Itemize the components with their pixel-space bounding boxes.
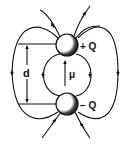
field-line-top-left [40, 10, 60, 37]
negative-charge-sphere [56, 93, 78, 115]
field-line-bottom-right [75, 112, 90, 138]
dipole-diagram: + Q − Q d μ [0, 0, 126, 144]
field-arrow-bottom-right [81, 124, 84, 128]
separation-label: d [23, 67, 30, 79]
negative-charge-label: − Q [80, 100, 97, 111]
field-line-inner-right [76, 54, 91, 96]
field-arrow-top-right [82, 13, 85, 18]
field-line-outer-left [12, 27, 58, 118]
dipole-figure: + Q − Q d μ [0, 0, 126, 144]
field-line-inner-left [44, 54, 61, 96]
positive-charge-sphere [56, 34, 78, 56]
positive-charge-label: + Q [80, 41, 97, 52]
dipole-moment-label: μ [69, 69, 75, 80]
